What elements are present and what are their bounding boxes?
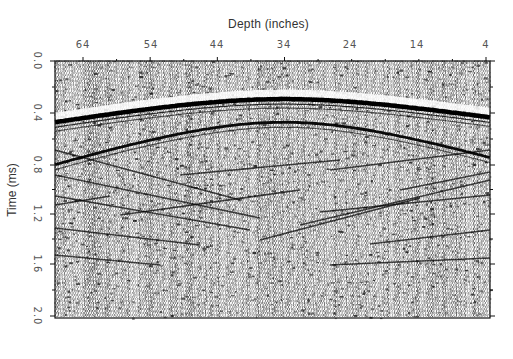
radargram-plot: [0, 0, 513, 359]
